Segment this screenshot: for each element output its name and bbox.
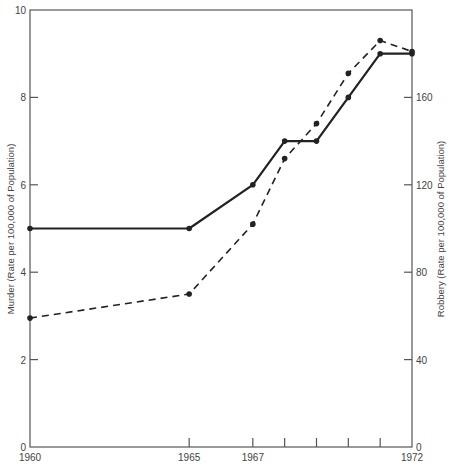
left-axis-title: Murder (Rate per 100,000 of Population) — [5, 144, 16, 315]
left-tick-label: 6 — [20, 180, 26, 191]
data-point-marker — [314, 121, 320, 127]
data-point-marker — [282, 156, 288, 162]
data-point-marker — [250, 221, 256, 227]
data-point-marker — [27, 315, 33, 321]
right-tick-label: 120 — [416, 180, 433, 191]
x-tick-label: 1967 — [242, 452, 265, 463]
right-y-axis: 04080120160 — [404, 92, 433, 453]
data-point-marker — [346, 95, 352, 101]
data-point-marker — [314, 138, 320, 144]
right-axis-title: Robbery (Rate per 100,000 of Population) — [435, 141, 446, 317]
data-series — [27, 38, 415, 321]
left-tick-label: 2 — [20, 355, 26, 366]
x-tick-label: 1972 — [401, 452, 424, 463]
data-point-marker — [250, 182, 256, 188]
data-point-marker — [27, 226, 33, 232]
x-tick-label: 1965 — [178, 452, 201, 463]
right-tick-label: 80 — [416, 267, 428, 278]
left-tick-label: 10 — [15, 5, 27, 16]
dual-axis-line-chart: 0246810 04080120160 1960196519671972 Mur… — [0, 0, 454, 467]
right-tick-label: 40 — [416, 355, 428, 366]
series-line-murder — [30, 54, 412, 229]
data-point-marker — [186, 226, 192, 232]
data-point-marker — [377, 38, 383, 44]
data-point-marker — [282, 138, 288, 144]
data-point-marker — [409, 49, 415, 55]
x-tick-label: 1960 — [19, 452, 42, 463]
x-axis: 1960196519671972 — [19, 438, 424, 463]
data-point-marker — [346, 71, 352, 77]
series-line-robbery — [30, 41, 412, 318]
left-tick-label: 8 — [20, 92, 26, 103]
right-tick-label: 160 — [416, 92, 433, 103]
data-point-marker — [377, 51, 383, 57]
left-tick-label: 4 — [20, 267, 26, 278]
data-point-marker — [186, 291, 192, 297]
